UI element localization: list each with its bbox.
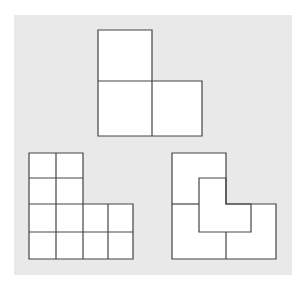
l-tromino-top [98, 30, 202, 136]
l-rep-tile-bottom-right [172, 153, 276, 259]
l-rep-tile-outline [172, 153, 276, 259]
l-grid-outline [29, 153, 133, 259]
l-grid-bottom-left [29, 153, 133, 259]
l-tromino-outline [98, 30, 202, 136]
figure-canvas [0, 0, 307, 288]
